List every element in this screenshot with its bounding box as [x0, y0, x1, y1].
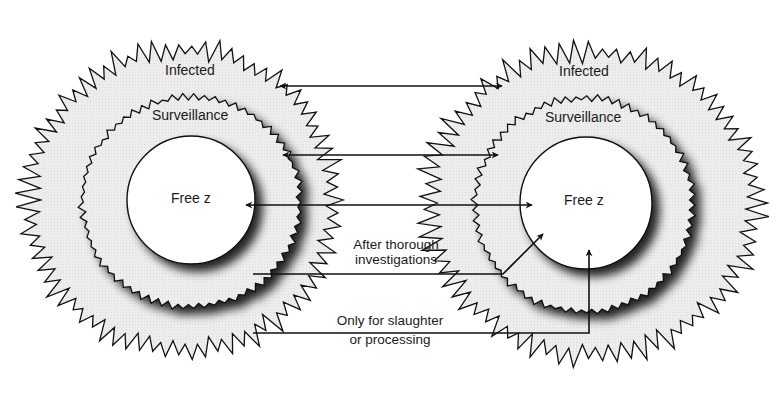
right-surveillance-label: Surveillance — [545, 110, 621, 125]
left-infected-label: Infected — [165, 63, 215, 78]
after-investigations-label: After thorough investigations — [336, 238, 456, 268]
slaughter-processing-line2: or processing — [325, 333, 455, 348]
left-free-label: Free z — [171, 191, 211, 206]
zone-diagram: Infected Surveillance Free z Infected Su… — [0, 0, 777, 394]
right-infected-label: Infected — [559, 64, 609, 79]
after-investigations-line2: investigations — [336, 253, 456, 268]
after-investigations-line1: After thorough — [336, 238, 456, 253]
right-free-label: Free z — [564, 193, 604, 208]
slaughter-processing-line1: Only for slaughter — [325, 314, 455, 329]
left-surveillance-label: Surveillance — [152, 108, 228, 123]
slaughter-processing-label: Only for slaughter or processing — [325, 314, 455, 348]
